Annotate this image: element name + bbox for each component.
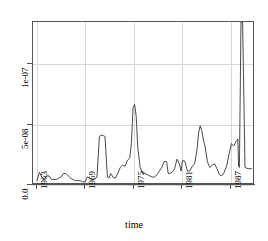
y-tick-label-text: 1e-07 [21, 68, 30, 89]
x-tick-2 [133, 184, 134, 189]
chart-figure: 0.05e-081e-07 19631969197519811987 time [0, 0, 268, 241]
x-tick-label-0: 1963 [40, 171, 49, 189]
y-tick-label-0: 0.0 [21, 194, 30, 205]
x-tick-label-3: 1981 [185, 171, 194, 189]
y-tick-0 [27, 184, 32, 185]
x-axis-title: time [0, 219, 268, 230]
plot-area [32, 21, 254, 184]
x-tick-label-1: 1969 [88, 171, 97, 189]
x-tick-3 [181, 184, 182, 189]
y-tick-1 [27, 124, 32, 125]
x-tick-1 [84, 184, 85, 189]
x-tick-0 [36, 184, 37, 189]
y-tick-label-2: 1e-07 [21, 78, 30, 99]
y-tick-label-text: 0.0 [21, 189, 30, 200]
y-tick-label-text: 5e-08 [21, 128, 30, 149]
y-tick-label-1: 5e-08 [21, 138, 30, 159]
x-tick-label-4: 1987 [234, 171, 243, 189]
x-tick-label-2: 1975 [137, 171, 146, 189]
x-tick-4 [230, 184, 231, 189]
y-axis-line [32, 21, 33, 185]
y-tick-2 [27, 63, 32, 64]
series-line [33, 22, 253, 183]
